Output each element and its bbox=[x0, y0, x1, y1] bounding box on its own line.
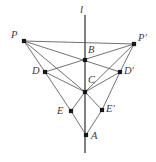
point-label-B: B bbox=[88, 45, 94, 56]
point-label-Ep: E′ bbox=[106, 104, 115, 115]
vertex-dot-E bbox=[69, 109, 73, 113]
segment-P-Pprime bbox=[24, 41, 134, 44]
figure-canvas bbox=[0, 0, 156, 162]
segment-E-C bbox=[71, 92, 85, 111]
segment-Eprime-C bbox=[85, 92, 102, 110]
vertex-dot-A bbox=[84, 133, 88, 137]
point-label-Pp: P′ bbox=[138, 33, 147, 44]
vertex-dot-B bbox=[83, 58, 87, 62]
vertex-dot-C bbox=[83, 90, 87, 94]
point-label-D: D bbox=[32, 66, 40, 77]
vertex-dot-P bbox=[22, 39, 26, 43]
point-label-E: E bbox=[57, 106, 63, 117]
point-label-P: P bbox=[11, 30, 17, 41]
mirror-line-label: l bbox=[80, 4, 83, 15]
segment-E-A bbox=[71, 111, 86, 135]
vertex-dot-Dp bbox=[118, 70, 122, 74]
geometry-figure: PP′BDD′CEE′A l bbox=[0, 0, 156, 162]
vertex-dot-Pp bbox=[132, 42, 136, 46]
point-label-C: C bbox=[88, 75, 95, 86]
point-label-Dp: D′ bbox=[124, 66, 134, 77]
vertex-dot-D bbox=[43, 70, 47, 74]
point-label-A: A bbox=[91, 131, 97, 142]
vertex-dot-Ep bbox=[100, 108, 104, 112]
segments-group bbox=[24, 41, 134, 135]
